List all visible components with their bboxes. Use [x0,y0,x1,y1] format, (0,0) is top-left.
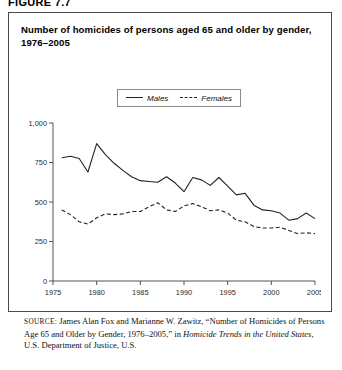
y-tick-label: 500 [35,198,47,207]
x-tick-label: 1995 [219,288,235,297]
figure-label: FIGURE 7.7 [8,0,71,9]
y-tick-label: 250 [35,237,47,246]
legend-entry-females: Females [180,94,232,103]
series-line-males [62,144,315,221]
y-tick-label: 750 [35,158,47,167]
line-chart-svg: 02505007501,0001975198019851990199520002… [21,117,321,307]
figure-panel: Number of homicides of persons aged 65 a… [8,12,332,312]
chart-title: Number of homicides of persons aged 65 a… [21,23,313,49]
source-note: SOURCE: James Alan Fox and Marianne W. Z… [24,316,330,352]
chart-legend: Males Females [117,89,241,107]
x-tick-label: 1975 [45,288,61,297]
y-tick-label: 1,000 [29,119,48,128]
legend-label-females: Females [201,94,232,103]
x-tick-label: 1990 [176,288,192,297]
x-tick-label: 1985 [132,288,148,297]
legend-entry-males: Males [126,94,168,103]
x-tick-label: 1980 [88,288,104,297]
solid-line-icon [126,97,143,99]
y-tick-label: 0 [43,277,47,286]
x-tick-label: 2005 [307,288,321,297]
source-line3-italic: Homicide Trends in the United States [183,329,311,339]
dashed-line-icon [180,97,197,99]
x-tick-label: 2000 [263,288,279,297]
source-line1: James Alan Fox and Marianne W. Zawitz, “… [57,316,247,326]
legend-label-males: Males [147,94,168,103]
source-prefix: SOURCE: [24,318,57,326]
series-line-females [62,203,315,234]
plot-area: 02505007501,0001975198019851990199520002… [21,117,321,307]
